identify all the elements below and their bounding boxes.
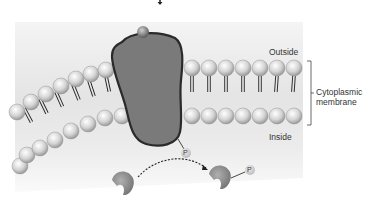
ligand-sphere-icon [137,26,149,38]
membrane-signaling-diagram: Outside Inside Cytoplasmic membrane P P [0,0,377,207]
substrate-unphosphorylated [112,171,134,195]
label-phospho-protein: P [183,148,188,158]
label-membrane-line1: Cytoplasmic [316,87,362,97]
membrane-bracket [307,61,314,125]
substrate-phosphorylated [209,165,231,189]
label-phospho-target: P [247,165,252,175]
label-membrane-line2: membrane [316,97,357,107]
arrow-down-icon [158,0,163,5]
label-inside: Inside [269,132,292,142]
label-outside: Outside [269,47,298,57]
